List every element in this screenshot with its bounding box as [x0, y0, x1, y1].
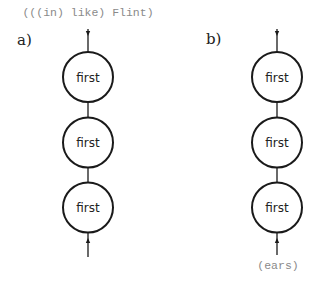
panel-a-node-1: first	[63, 52, 113, 102]
panel-a-node-2: first	[63, 118, 113, 168]
arrow-up-icon	[275, 238, 279, 243]
panel-b-chain: first first first	[252, 29, 302, 255]
node-label: first	[265, 71, 289, 85]
diagram-graphics: first first first first	[0, 0, 322, 281]
panel-b-node-3: first	[252, 183, 302, 233]
arrow-down-icon	[275, 31, 279, 36]
panel-a-node-3: first	[63, 183, 113, 233]
diagram-canvas: a) b) (((in) like) Flint) (ears) first f…	[0, 0, 322, 281]
node-label: first	[265, 136, 289, 150]
panel-a-chain: first first first	[63, 29, 113, 257]
node-label: first	[76, 71, 100, 85]
panel-b-node-1: first	[252, 52, 302, 102]
node-label: first	[76, 136, 100, 150]
arrow-up-icon	[86, 238, 90, 243]
node-label: first	[76, 201, 100, 215]
arrow-down-icon	[86, 31, 90, 36]
node-label: first	[265, 201, 289, 215]
panel-b-node-2: first	[252, 118, 302, 168]
